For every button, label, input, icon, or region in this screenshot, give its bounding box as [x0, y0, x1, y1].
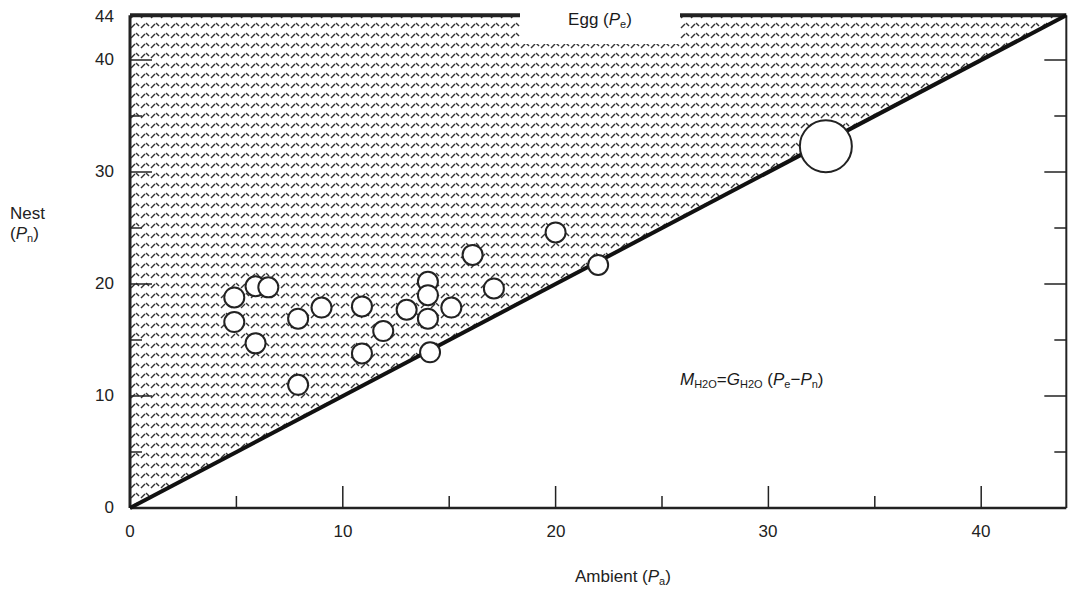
y-tick-label: 30: [74, 162, 114, 182]
x-tick-label: 0: [110, 522, 150, 542]
formula-annotation: MH2O=GH2O (Pe−Pn): [680, 370, 824, 390]
y-tick-label: 10: [74, 386, 114, 406]
data-point: [246, 333, 266, 353]
data-point: [224, 287, 244, 307]
x-tick-label: 20: [536, 522, 576, 542]
data-point: [588, 255, 608, 275]
data-point: [418, 285, 438, 305]
data-point: [224, 312, 244, 332]
y-tick-label: 40: [74, 50, 114, 70]
x-tick-label: 10: [323, 522, 363, 542]
x-tick-label: 40: [961, 522, 1001, 542]
data-point: [420, 342, 440, 362]
x-axis-title: Ambient (Pa): [575, 567, 671, 587]
data-point: [397, 300, 417, 320]
y-tick-label: 44: [74, 7, 114, 27]
data-point: [546, 222, 566, 242]
data-point: [312, 298, 332, 318]
egg-label: Egg (Pe): [520, 0, 680, 44]
data-point: [352, 343, 372, 363]
y-tick-label: 20: [74, 274, 114, 294]
y-tick-label: 0: [74, 498, 114, 518]
scatter-chart: [0, 0, 1073, 597]
x-tick-label: 30: [748, 522, 788, 542]
data-point: [352, 296, 372, 316]
data-point: [258, 277, 278, 297]
y-axis-title: Nest (Pn): [10, 204, 45, 248]
data-point: [463, 245, 483, 265]
data-point: [441, 298, 461, 318]
data-point: [373, 321, 393, 341]
data-point: [418, 309, 438, 329]
data-point: [800, 120, 852, 172]
data-point: [288, 375, 308, 395]
data-point: [288, 309, 308, 329]
data-point: [484, 278, 504, 298]
